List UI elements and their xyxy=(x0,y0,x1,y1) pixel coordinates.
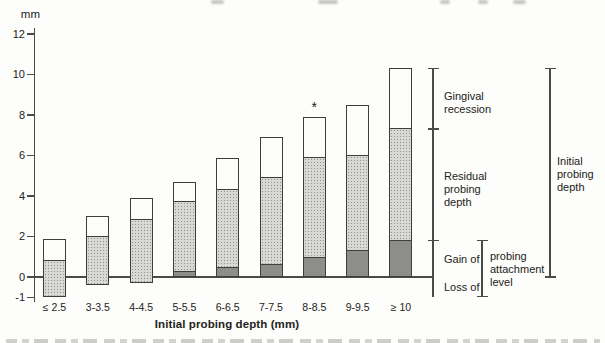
bar-segment-residual-probing-depth xyxy=(87,236,108,285)
attachment-bracket-label: probing attachment level xyxy=(490,250,562,289)
bar-segment-residual-probing-depth xyxy=(261,177,282,264)
initial-depth-bracket-bottom-cap xyxy=(545,276,556,277)
bar-segment-attachment-gain xyxy=(261,264,282,276)
bar-segment-gingival-recession xyxy=(347,106,368,155)
outcome-bracket-tick xyxy=(428,128,439,129)
bar-3-3.5 xyxy=(86,216,109,285)
y-axis-tick xyxy=(27,236,34,237)
y-axis-tick xyxy=(27,114,34,115)
outcome-label-1: Residual probing depth xyxy=(444,169,500,208)
x-category-label: 8-8.5 xyxy=(293,301,336,313)
bar-segment-attachment-gain xyxy=(390,240,411,276)
bar-5-5.5 xyxy=(173,182,196,277)
y-tick-label: 2 xyxy=(0,230,25,243)
initial-depth-bracket-label: Initial probing depth xyxy=(557,154,605,193)
initial-depth-bracket-line xyxy=(549,68,550,277)
bar-segment-residual-probing-depth xyxy=(131,219,152,282)
y-axis-tick xyxy=(27,74,34,75)
bar-8-8.5 xyxy=(303,117,326,277)
y-tick-label: 0 xyxy=(0,271,25,284)
cropped-print-artifact xyxy=(211,0,224,4)
bar-segment-gingival-recession xyxy=(174,183,195,201)
outcome-label-0: Gingival recession xyxy=(444,90,508,116)
bar-segment-residual-probing-depth xyxy=(174,201,195,271)
bar-segment-attachment-gain xyxy=(217,267,238,276)
cropped-print-artifact xyxy=(478,0,488,4)
bar-segment-attachment-gain xyxy=(174,271,195,276)
bar-6-6.5 xyxy=(216,158,239,277)
x-category-label: 6-6.5 xyxy=(206,301,249,313)
significance-marker: * xyxy=(303,100,326,114)
bar-segment-attachment-gain xyxy=(304,257,325,276)
bar-segment-residual-probing-depth xyxy=(44,260,65,296)
y-tick-label: 8 xyxy=(0,109,25,122)
attachment-bracket-bottom-cap xyxy=(477,296,488,297)
x-category-label: 7-7.5 xyxy=(250,301,293,313)
bar-segment-residual-probing-depth xyxy=(347,155,368,250)
y-tick-label: 10 xyxy=(0,68,25,81)
plot-area: 121086420-1≤ 2.53-3.54-4.55-5.56-6.57-7.… xyxy=(0,0,605,343)
y-axis-tick xyxy=(27,195,34,196)
bar-9-9.5 xyxy=(346,105,369,277)
bar-segment-gingival-recession xyxy=(261,138,282,177)
bar-4-4.5 xyxy=(130,198,153,283)
y-axis-tick xyxy=(27,155,34,156)
x-axis-title: Initial probing depth (mm) xyxy=(117,318,337,330)
bar-segment-gingival-recession xyxy=(390,69,411,128)
x-category-label: 3-3.5 xyxy=(76,301,119,313)
y-tick-label: 4 xyxy=(0,190,25,203)
cropped-caption-artifact xyxy=(6,339,600,343)
x-category-label: 4-4.5 xyxy=(120,301,163,313)
x-category-label: 9-9.5 xyxy=(336,301,379,313)
y-axis-tick xyxy=(27,33,34,34)
bar-≥ 10 xyxy=(389,68,412,277)
outcome-bracket-tick xyxy=(428,240,439,241)
cropped-print-artifact xyxy=(440,0,450,4)
y-axis-tick xyxy=(27,276,34,277)
bar-segment-residual-probing-depth xyxy=(217,189,238,267)
bar-≤ 2.5 xyxy=(43,239,66,298)
attachment-bracket-line xyxy=(481,241,482,297)
cropped-print-artifact xyxy=(318,0,338,4)
outcome-bracket-top-cap xyxy=(428,68,439,69)
y-tick-label: -1 xyxy=(0,291,25,304)
y-tick-label: 6 xyxy=(0,149,25,162)
x-category-label: ≥ 10 xyxy=(379,301,422,313)
x-category-label: 5-5.5 xyxy=(163,301,206,313)
figure: mm 121086420-1≤ 2.53-3.54-4.55-5.56-6.57… xyxy=(0,0,605,343)
y-tick-label: 12 xyxy=(0,28,25,41)
bar-7-7.5 xyxy=(260,137,283,277)
x-category-label: ≤ 2.5 xyxy=(33,301,76,313)
bar-segment-gingival-recession xyxy=(304,118,325,157)
bar-segment-residual-probing-depth xyxy=(390,128,411,239)
attachment-bracket-top-cap xyxy=(477,240,488,241)
bar-segment-gingival-recession xyxy=(131,199,152,219)
cropped-print-artifact xyxy=(513,0,526,4)
bar-segment-attachment-gain xyxy=(347,250,368,276)
bar-segment-gingival-recession xyxy=(87,217,108,235)
outcome-bracket-line xyxy=(432,68,433,297)
y-axis-tick xyxy=(27,297,34,298)
bar-segment-residual-probing-depth xyxy=(304,157,325,257)
bar-segment-gingival-recession xyxy=(44,240,65,260)
initial-depth-bracket-top-cap xyxy=(545,68,556,69)
bar-segment-gingival-recession xyxy=(217,159,238,189)
y-axis-line xyxy=(34,28,35,302)
